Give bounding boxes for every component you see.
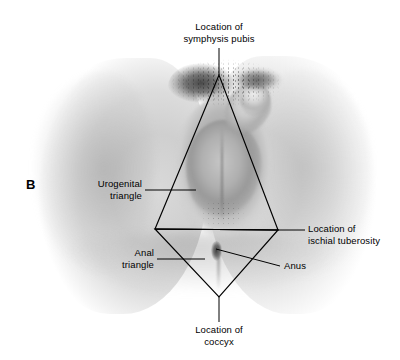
label-ischial-tuberosity: Location of ischial tuberosity [308, 223, 400, 246]
panel-letter-b: B [26, 177, 35, 192]
anal-triangle-outline [155, 229, 278, 297]
label-urogenital-triangle: Urogenital triangle [58, 178, 142, 201]
anatomy-figure-panel: B Location of symphysis pubis Urogenital… [0, 0, 400, 360]
label-coccyx: Location of coccyx [159, 324, 279, 347]
label-anus: Anus [284, 260, 324, 272]
label-symphysis-pubis: Location of symphysis pubis [159, 21, 279, 44]
interischial-line [155, 229, 278, 230]
label-anal-triangle: Anal triangle [94, 247, 154, 270]
urogenital-triangle-outline [155, 75, 278, 230]
